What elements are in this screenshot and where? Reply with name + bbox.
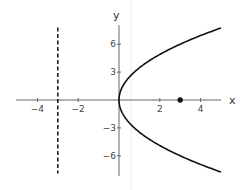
chart-canvas: −4−224 63−3−6 x y: [0, 0, 247, 190]
x-tick-label: −4: [31, 104, 45, 114]
y-tick-label: 3: [110, 67, 116, 77]
y-tick-label: −3: [103, 123, 116, 133]
focus-point: [178, 97, 183, 102]
x-tick-label: 2: [157, 104, 163, 114]
x-tick-label: −2: [72, 104, 85, 114]
y-axis-label: y: [113, 9, 120, 22]
x-axis-label: x: [229, 94, 236, 107]
y-tick-label: 6: [110, 39, 116, 49]
y-tick-label: −6: [103, 151, 117, 161]
x-tick-label: 4: [198, 104, 204, 114]
